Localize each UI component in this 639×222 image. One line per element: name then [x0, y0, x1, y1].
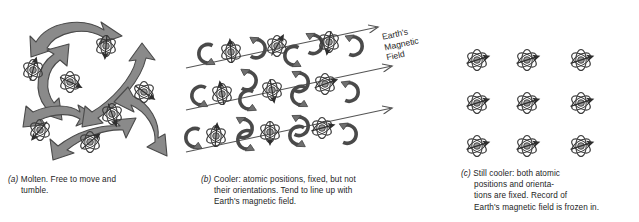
caption-a-line-1: Molten. Free to move and [21, 175, 116, 184]
panel-c-still-cooler [465, 50, 595, 157]
panel-b-cooler [184, 27, 392, 152]
caption-c-line-2: positions and orienta- [461, 179, 639, 190]
panel-c-atoms [465, 50, 595, 157]
caption-c-line-4: Earth's magnetic field is frozen in. [461, 202, 639, 213]
panel-b-label: (b) [201, 175, 211, 184]
field-line [186, 66, 392, 110]
panel-a-label: (a) [8, 175, 18, 184]
panel-a-molten [21, 22, 167, 160]
caption-panel-a: (a)Molten. Free to move and tumble. [8, 174, 188, 196]
caption-b-line-3: Earth's magnetic field. [201, 196, 434, 207]
caption-c-line-3: tions are fixed. Record of [461, 190, 639, 201]
panel-b-atoms [204, 31, 340, 148]
caption-b-line-1: Cooler: atomic positions, fixed, but not [214, 175, 356, 184]
caption-panel-b: (b)Cooler: atomic positions, fixed, but … [201, 174, 434, 208]
caption-c-line-1: Still cooler: both atomic [473, 169, 560, 178]
caption-a-line-2: tumble. [8, 185, 188, 196]
caption-panel-c: (c)Still cooler: both atomic positions a… [461, 168, 639, 213]
caption-b-line-2: their orientations. Tend to line up with [201, 185, 434, 196]
figure-root: Earth's Magnetic Field (a)Molten. Free t… [0, 0, 639, 222]
panel-c-label: (c) [461, 169, 471, 178]
